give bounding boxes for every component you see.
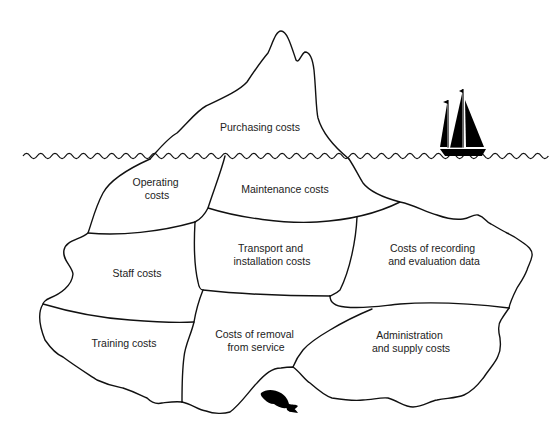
divider-operating-staff [88, 222, 195, 234]
divider-training-removal [182, 290, 203, 402]
label-removal-from-service: Costs of removal from service [215, 328, 297, 353]
label-training-costs: Training costs [92, 337, 157, 349]
iceberg-right-outline [349, 159, 532, 308]
label-transport-installation: Transport and installation costs [233, 242, 310, 267]
label-recording-evaluation: Costs of recording and evaluation data [388, 242, 480, 267]
fish-icon [261, 390, 298, 413]
iceberg-diagram: Purchasing costs Operating costs Mainten… [0, 0, 556, 429]
label-staff-costs: Staff costs [113, 267, 162, 279]
divider-removal-admin [293, 309, 372, 367]
label-operating-costs: Operating costs [132, 176, 181, 201]
label-maintenance-costs: Maintenance costs [241, 183, 329, 195]
label-purchasing-costs: Purchasing costs [220, 121, 300, 133]
iceberg-tip-outline [150, 31, 349, 159]
iceberg-bottom-outline [182, 308, 509, 413]
divider-staff-training [43, 304, 194, 322]
sailing-ship-icon [440, 89, 486, 156]
divider-recording-admin [330, 296, 509, 308]
divider-maintenance-transport [208, 202, 400, 222]
divider-transport-recording [330, 217, 357, 296]
label-administration-supply: Administration and supply costs [372, 329, 450, 354]
